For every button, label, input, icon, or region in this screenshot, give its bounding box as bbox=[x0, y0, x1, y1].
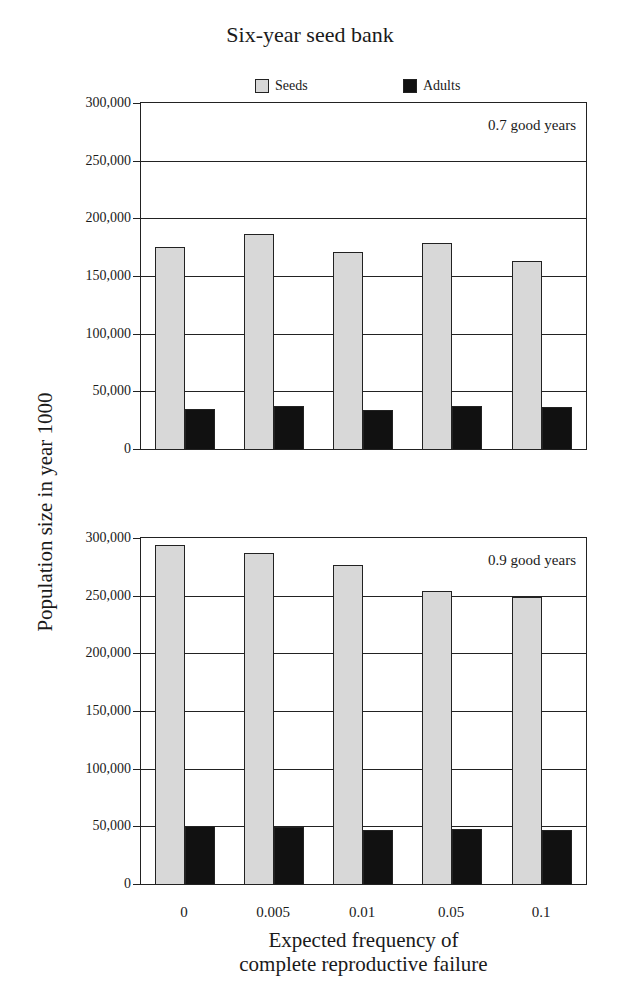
adults-bar bbox=[452, 406, 482, 449]
x-tick-label: 0 bbox=[180, 904, 188, 921]
y-tick-label: 100,000 bbox=[86, 326, 132, 342]
x-axis-title: Expected frequency of complete reproduct… bbox=[140, 928, 587, 976]
y-tick-label: 250,000 bbox=[86, 588, 132, 604]
seeds-bar bbox=[422, 243, 452, 449]
y-tick-label: 0 bbox=[124, 441, 131, 457]
legend-seeds-label: Seeds bbox=[275, 78, 308, 94]
adults-bar bbox=[363, 410, 393, 449]
y-tick-label: 250,000 bbox=[86, 153, 132, 169]
adults-bar bbox=[363, 830, 393, 884]
y-tick-label: 300,000 bbox=[86, 95, 132, 111]
seeds-bar bbox=[244, 234, 274, 449]
x-tick-label: 0.01 bbox=[349, 904, 375, 921]
x-tick-label: 0.1 bbox=[532, 904, 551, 921]
y-tick bbox=[133, 334, 141, 335]
legend-adults-label: Adults bbox=[423, 78, 460, 94]
x-tick-label: 0.005 bbox=[256, 904, 290, 921]
seeds-bar bbox=[244, 553, 274, 884]
panel-bottom-chart: 0.9 good years 050,000100,000150,000200,… bbox=[140, 537, 587, 885]
seeds-bar bbox=[422, 591, 452, 884]
seeds-bar bbox=[333, 565, 363, 884]
legend-seeds: Seeds bbox=[255, 78, 308, 94]
adults-bar bbox=[452, 829, 482, 884]
y-tick bbox=[133, 276, 141, 277]
y-tick-label: 300,000 bbox=[86, 530, 132, 546]
panel-top-chart: 0.7 good years 050,000100,000150,000200,… bbox=[140, 102, 587, 450]
y-tick bbox=[133, 711, 141, 712]
y-tick-label: 100,000 bbox=[86, 761, 132, 777]
seeds-bar bbox=[512, 261, 542, 449]
panel-label: 0.9 good years bbox=[488, 552, 576, 569]
seeds-swatch bbox=[255, 79, 269, 93]
y-tick-label: 150,000 bbox=[86, 703, 132, 719]
seeds-bar bbox=[155, 545, 185, 884]
y-tick bbox=[133, 218, 141, 219]
y-axis-title: Population size in year 1000 bbox=[33, 392, 58, 631]
y-tick-label: 0 bbox=[124, 876, 131, 892]
y-tick-label: 200,000 bbox=[86, 210, 132, 226]
seeds-bar bbox=[333, 252, 363, 449]
x-axis-title-line2: complete reproductive failure bbox=[140, 952, 587, 976]
adults-bar bbox=[274, 406, 304, 449]
y-tick bbox=[133, 769, 141, 770]
y-tick bbox=[133, 449, 141, 450]
y-tick bbox=[133, 596, 141, 597]
chart-title: Six-year seed bank bbox=[0, 22, 620, 48]
legend-adults: Adults bbox=[403, 78, 460, 94]
adults-bar bbox=[274, 827, 304, 884]
x-axis-title-line1: Expected frequency of bbox=[140, 928, 587, 952]
panel-label: 0.7 good years bbox=[488, 117, 576, 134]
adults-bar bbox=[185, 409, 215, 449]
adults-bar bbox=[185, 826, 215, 884]
y-tick bbox=[133, 884, 141, 885]
y-tick bbox=[133, 391, 141, 392]
y-tick bbox=[133, 653, 141, 654]
y-tick bbox=[133, 826, 141, 827]
y-tick-label: 50,000 bbox=[93, 818, 132, 834]
adults-swatch bbox=[403, 79, 417, 93]
y-tick-label: 150,000 bbox=[86, 268, 132, 284]
y-tick bbox=[133, 161, 141, 162]
gridline bbox=[141, 218, 586, 219]
seeds-bar bbox=[512, 597, 542, 884]
y-tick bbox=[133, 103, 141, 104]
y-tick-label: 50,000 bbox=[93, 383, 132, 399]
adults-bar bbox=[542, 830, 572, 884]
seeds-bar bbox=[155, 247, 185, 449]
x-tick-label: 0.05 bbox=[438, 904, 464, 921]
adults-bar bbox=[542, 407, 572, 449]
y-tick-label: 200,000 bbox=[86, 645, 132, 661]
y-tick bbox=[133, 538, 141, 539]
gridline bbox=[141, 161, 586, 162]
